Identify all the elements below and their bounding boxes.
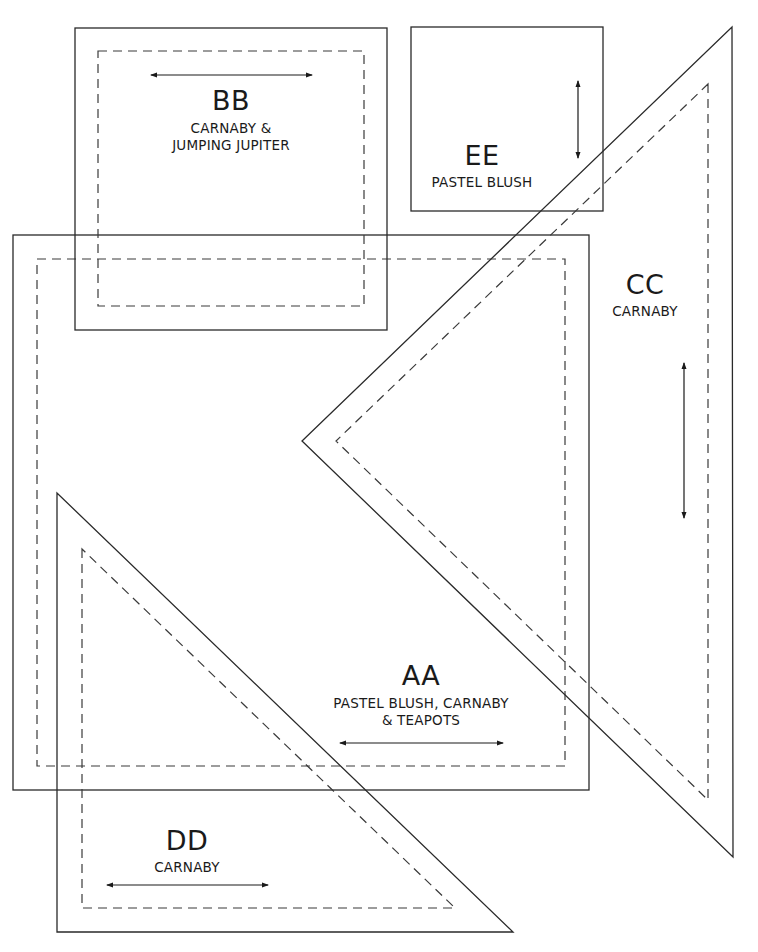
piece-aa-label: AA PASTEL BLUSH, CARNABY & TEAPOTS (333, 661, 508, 729)
piece-ee-code: EE (432, 141, 533, 171)
piece-dd-fabric-line1: CARNABY (154, 859, 220, 876)
piece-dd-code: DD (154, 826, 220, 856)
piece-aa-code: AA (333, 661, 508, 691)
piece-bb (75, 28, 387, 330)
piece-bb-cut-line (75, 28, 387, 330)
piece-bb-fabric-line1: CARNABY & (172, 120, 290, 137)
piece-cc-label: CC CARNABY (612, 270, 678, 320)
piece-cc-fabric-line1: CARNABY (612, 303, 678, 320)
piece-bb-code: BB (172, 86, 290, 116)
pattern-template-canvas (0, 0, 758, 952)
piece-bb-fabric-line2: JUMPING JUPITER (172, 137, 290, 154)
piece-aa-fabric-line1: PASTEL BLUSH, CARNABY (333, 695, 508, 712)
piece-ee-fabric-line1: PASTEL BLUSH (432, 174, 533, 191)
piece-cc-code: CC (612, 270, 678, 300)
piece-bb-label: BB CARNABY & JUMPING JUPITER (172, 86, 290, 154)
piece-dd-label: DD CARNABY (154, 826, 220, 876)
piece-ee-label: EE PASTEL BLUSH (432, 141, 533, 191)
piece-aa-fabric-line2: & TEAPOTS (333, 712, 508, 729)
